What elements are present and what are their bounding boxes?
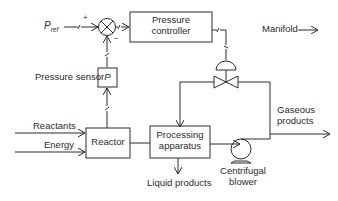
manifold-label: Manifold: [262, 24, 298, 35]
minus-sign: −: [114, 34, 119, 43]
reactor-to-sensor-line: [105, 88, 109, 128]
reactants-label: Reactants: [33, 121, 76, 132]
pressure-sensor-symbol: P: [98, 72, 117, 83]
pref-label: Pref: [44, 20, 58, 33]
centrifugal-blower-label: Centrifugalblower: [216, 166, 270, 188]
centrifugal-blower-icon: [231, 139, 270, 163]
process-diagram: Pref + − Pressurecontroller Manifold Pre…: [0, 0, 338, 201]
processing-apparatus-label: Processingapparatus: [150, 130, 210, 152]
liquid-products-label: Liquid products: [147, 178, 211, 189]
error-signal-line: [116, 25, 129, 29]
gaseous-products-label: Gaseousproducts: [277, 105, 315, 127]
controller-to-valve-line: [212, 28, 228, 60]
pressure-controller-label: Pressurecontroller: [130, 15, 212, 37]
feedback-signal-line: [105, 36, 109, 67]
plus-sign: +: [83, 13, 88, 22]
valve-actuator-icon: [216, 61, 236, 70]
reactor-label: Reactor: [86, 137, 130, 148]
energy-label: Energy: [44, 140, 74, 151]
summing-junction-icon: [99, 19, 116, 36]
pref-signal-line: [64, 25, 98, 29]
pressure-sensor-label: Pressure sensor: [35, 72, 104, 83]
